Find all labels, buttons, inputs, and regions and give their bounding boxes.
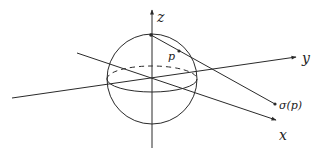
z-axis-label: z xyxy=(156,9,165,25)
north-pole-point xyxy=(149,33,153,37)
point-sigma-p xyxy=(273,102,276,105)
sigma-p-label: σ(p) xyxy=(279,99,302,112)
x-axis-label: x xyxy=(279,127,287,143)
stereographic-projection-diagram: z y x p σ(p) xyxy=(0,0,327,156)
projection-ray xyxy=(151,35,275,104)
point-p-label: p xyxy=(168,50,175,63)
y-axis-label: y xyxy=(301,50,311,66)
point-p xyxy=(177,49,180,52)
x-axis xyxy=(77,53,276,120)
